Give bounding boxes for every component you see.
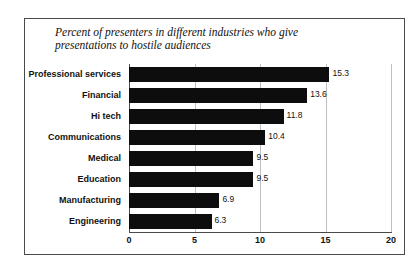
bar [129,88,307,103]
bar-value-label: 9.5 [256,152,268,162]
x-axis-line [129,232,392,233]
x-axis-tick-labels: 05101520 [129,235,392,249]
category-label: Education [77,172,121,187]
category-label: Communications [48,130,121,145]
x-tick-label: 10 [255,235,265,245]
bar-row: 10.4 [129,130,391,145]
bar-value-label: 13.6 [310,89,327,99]
bar [129,67,329,82]
bar-value-label: 6.3 [215,215,227,225]
bar-value-label: 9.5 [256,173,268,183]
chart-title: Percent of presenters in different indus… [55,26,355,52]
page-heading: Chart 3-9: How Hostile Are Audiences? [0,0,417,3]
bar [129,130,265,145]
bar-row: 11.8 [129,109,391,124]
x-tick-label: 15 [320,235,330,245]
x-tick-label: 0 [126,235,131,245]
category-label: Medical [88,151,121,166]
bar-value-label: 11.8 [287,110,303,120]
category-label: Hi tech [91,109,121,124]
category-label: Financial [82,88,121,103]
bar [129,193,219,208]
bar-row: 6.9 [129,193,391,208]
gridline [391,64,392,232]
category-axis-labels: Professional servicesFinancialHi techCom… [25,64,125,232]
bar-row: 9.5 [129,151,391,166]
chart-frame: Percent of presenters in different indus… [24,18,405,255]
bar-row: 13.6 [129,88,391,103]
category-label: Manufacturing [59,193,121,208]
x-tick-label: 5 [192,235,197,245]
category-label: Engineering [69,214,121,229]
bar-value-label: 6.9 [222,194,234,204]
x-tick-label: 20 [386,235,396,245]
bar [129,214,212,229]
bar-value-label: 10.4 [268,131,285,141]
bar [129,151,253,166]
bar-row: 6.3 [129,214,391,229]
bar [129,109,284,124]
category-label: Professional services [28,67,121,82]
bar-value-label: 15.3 [332,68,349,78]
bar-row: 9.5 [129,172,391,187]
plot-area: 15.313.611.810.49.59.56.96.3 [129,64,391,232]
bar [129,172,253,187]
bar-row: 15.3 [129,67,391,82]
